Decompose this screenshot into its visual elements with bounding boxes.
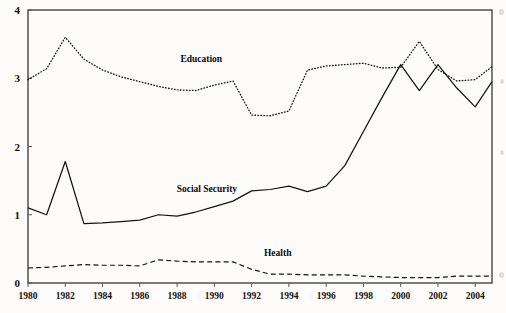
x-tick-label: 1998 (354, 291, 373, 301)
x-tick-label: 1988 (168, 291, 187, 301)
x-tick-label: 1994 (279, 291, 298, 301)
x-tick-label: 1990 (205, 291, 224, 301)
series-label-health: Health (264, 248, 292, 258)
series-lines (28, 37, 492, 277)
line-chart: 01234 1980198219841986198819901992199419… (0, 0, 506, 313)
y-tick-label: 3 (15, 72, 21, 84)
x-axis-tick-labels: 1980198219841986198819901992199419961998… (19, 291, 485, 301)
series-line-health (28, 260, 492, 278)
series-line-social-security (28, 65, 492, 224)
x-tick-label: 1984 (93, 291, 112, 301)
x-tick-label: 1992 (242, 291, 261, 301)
series-label-social-security: Social Security (177, 184, 238, 194)
y-axis-tick-labels: 01234 (15, 4, 21, 289)
plot-frame (28, 10, 492, 283)
y-tick-label: 1 (15, 209, 21, 221)
series-label-education: Education (180, 54, 222, 64)
x-tick-label: 1980 (19, 291, 38, 301)
x-tick-label: 1996 (317, 291, 336, 301)
series-line-education (28, 37, 492, 115)
x-tick-label: 2004 (466, 291, 485, 301)
chart-figure: 01234 1980198219841986198819901992199419… (0, 0, 506, 313)
y-tick-label: 2 (15, 141, 21, 153)
x-tick-label: 1986 (130, 291, 149, 301)
y-tick-label: 4 (15, 4, 21, 16)
x-tick-label: 2000 (391, 291, 410, 301)
x-tick-label: 2002 (428, 291, 447, 301)
x-tick-label: 1982 (56, 291, 75, 301)
y-tick-label: 0 (15, 277, 21, 289)
